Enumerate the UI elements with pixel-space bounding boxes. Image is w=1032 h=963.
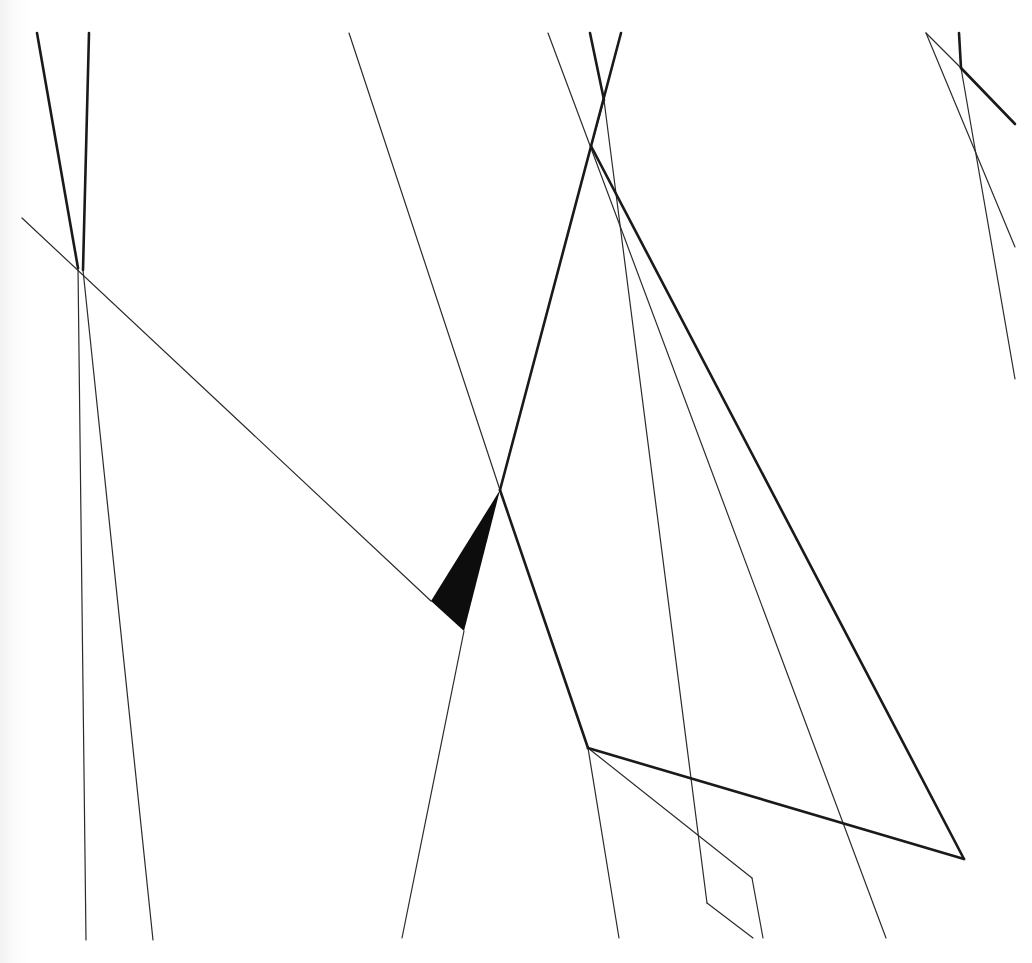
thick-lines bbox=[37, 33, 1015, 859]
thin-line bbox=[22, 218, 431, 601]
thick-line bbox=[959, 33, 961, 68]
thick-line bbox=[590, 33, 604, 100]
thin-line bbox=[349, 33, 500, 490]
thin-line bbox=[707, 903, 753, 938]
thin-line bbox=[78, 268, 86, 940]
thin-line bbox=[548, 33, 886, 938]
thin-line bbox=[83, 270, 153, 940]
thick-line bbox=[83, 33, 89, 270]
thin-lines bbox=[22, 33, 1015, 940]
thin-line bbox=[604, 100, 707, 903]
thin-line bbox=[926, 33, 1015, 247]
line-drawing bbox=[0, 0, 1032, 963]
thick-line bbox=[588, 748, 964, 859]
thin-line bbox=[402, 631, 464, 938]
artwork-canvas bbox=[0, 0, 1032, 963]
thin-line bbox=[752, 878, 763, 938]
thin-line bbox=[926, 33, 961, 68]
thick-line bbox=[500, 33, 621, 490]
thick-line bbox=[37, 33, 78, 268]
filled-triangle bbox=[431, 490, 500, 631]
thin-line bbox=[588, 748, 752, 878]
thin-line bbox=[588, 748, 619, 938]
thick-line bbox=[500, 490, 588, 748]
thick-line bbox=[591, 146, 964, 859]
